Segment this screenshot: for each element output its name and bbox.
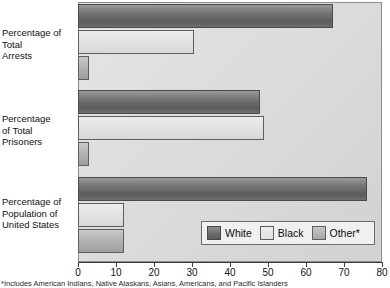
bar-black-group-0 bbox=[78, 30, 194, 54]
legend-item-other: Other* bbox=[312, 226, 360, 240]
legend-swatch-black-icon bbox=[260, 226, 274, 240]
bar-chart: Percentage of Total Arrests Percentage o… bbox=[0, 0, 390, 288]
category-label-arrests: Percentage of Total Arrests bbox=[2, 27, 78, 62]
x-tick-label-10: 10 bbox=[110, 267, 121, 278]
bar-white-group-0 bbox=[78, 4, 333, 28]
bar-other-group-2 bbox=[78, 229, 124, 253]
legend-label-black: Black bbox=[278, 227, 304, 239]
legend-item-white: White bbox=[207, 226, 252, 240]
category-label-population: Percentage of Population of United State… bbox=[2, 196, 78, 231]
bar-white-group-1 bbox=[78, 90, 260, 114]
legend-label-other: Other* bbox=[330, 227, 360, 239]
category-label-line: of Total bbox=[2, 125, 78, 137]
category-label-line: Percentage of bbox=[2, 196, 78, 208]
bar-other-group-1 bbox=[78, 142, 89, 166]
chart-footnote: *Includes American Indians, Native Alask… bbox=[1, 279, 389, 288]
legend-item-black: Black bbox=[260, 226, 304, 240]
category-label-line: Prisoners bbox=[2, 136, 78, 148]
category-label-line: Arrests bbox=[2, 50, 78, 62]
x-tick-label-50: 50 bbox=[262, 267, 273, 278]
legend-label-white: White bbox=[225, 227, 252, 239]
x-tick-label-70: 70 bbox=[338, 267, 349, 278]
category-label-line: United States bbox=[2, 219, 78, 231]
bar-other-group-0 bbox=[78, 56, 89, 80]
category-label-line: Population of bbox=[2, 208, 78, 220]
category-label-line: Percentage of bbox=[2, 27, 78, 39]
x-tick-label-0: 0 bbox=[75, 267, 81, 278]
bar-black-group-1 bbox=[78, 116, 264, 140]
x-tick-label-40: 40 bbox=[224, 267, 235, 278]
x-tick-label-80: 80 bbox=[376, 267, 387, 278]
chart-legend: White Black Other* bbox=[201, 221, 375, 245]
bar-black-group-2 bbox=[78, 203, 124, 227]
bar-white-group-2 bbox=[78, 177, 367, 201]
x-tick-label-20: 20 bbox=[148, 267, 159, 278]
legend-swatch-other-icon bbox=[312, 226, 326, 240]
category-label-prisoners: Percentage of Total Prisoners bbox=[2, 113, 78, 148]
category-label-line: Total bbox=[2, 39, 78, 51]
category-label-line: Percentage bbox=[2, 113, 78, 125]
x-tick-label-60: 60 bbox=[300, 267, 311, 278]
legend-swatch-white-icon bbox=[207, 226, 221, 240]
x-tick-label-30: 30 bbox=[186, 267, 197, 278]
